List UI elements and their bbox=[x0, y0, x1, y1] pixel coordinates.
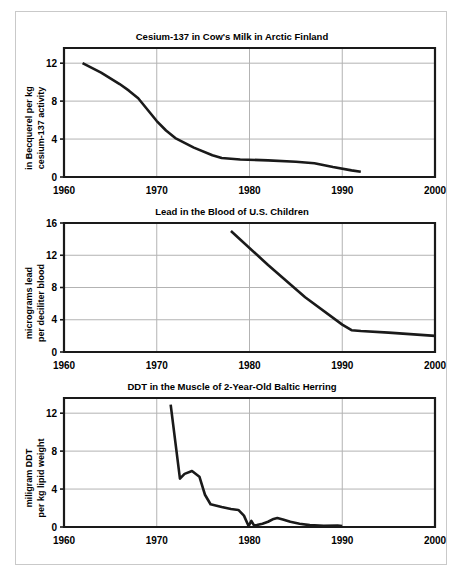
y-tick-label-cesium-4: 4 bbox=[51, 134, 57, 145]
x-tick-label-lead-1990: 1990 bbox=[331, 360, 354, 371]
y-tick-label-lead-0: 0 bbox=[51, 347, 57, 358]
chart-panel-cesium: Cesium-137 in Cow's Milk in Arctic Finla… bbox=[16, 28, 448, 200]
y-tick-label-lead-16: 16 bbox=[46, 218, 58, 229]
y-tick-label-lead-4: 4 bbox=[51, 314, 57, 325]
x-tick-label-cesium-1980: 1980 bbox=[238, 185, 261, 196]
y-axis-title-cesium-line2: cesium-137 activity bbox=[36, 87, 46, 170]
x-tick-label-cesium-1990: 1990 bbox=[331, 185, 354, 196]
x-tick-label-cesium-2000: 2000 bbox=[424, 185, 447, 196]
x-tick-label-ddt-1970: 1970 bbox=[146, 535, 169, 546]
chart-panel-ddt: DDT in the Muscle of 2-Year-Old Baltic H… bbox=[16, 378, 448, 550]
x-tick-label-cesium-1960: 1960 bbox=[53, 185, 76, 196]
chart-title-cesium: Cesium-137 in Cow's Milk in Arctic Finla… bbox=[136, 31, 329, 42]
x-tick-label-lead-1960: 1960 bbox=[53, 360, 76, 371]
x-tick-label-ddt-1990: 1990 bbox=[331, 535, 354, 546]
y-tick-label-ddt-4: 4 bbox=[51, 484, 57, 495]
y-axis-title-ddt-line1: miligram DDT bbox=[24, 448, 34, 507]
ticklabels-cesium: 0481219601970198019902000 bbox=[46, 58, 447, 196]
ticklabels-ddt: 0481219601970198019902000 bbox=[46, 408, 447, 546]
x-tick-label-lead-2000: 2000 bbox=[424, 360, 447, 371]
x-tick-label-ddt-1960: 1960 bbox=[53, 535, 76, 546]
y-tick-label-lead-12: 12 bbox=[46, 250, 58, 261]
figure-frame: Cesium-137 in Cow's Milk in Arctic Finla… bbox=[15, 11, 447, 565]
y-axis-title-lead-line1: micrograms lead bbox=[24, 267, 34, 339]
x-tick-label-ddt-2000: 2000 bbox=[424, 535, 447, 546]
chart-title-ddt: DDT in the Muscle of 2-Year-Old Baltic H… bbox=[127, 381, 336, 392]
chart-svg-ddt: DDT in the Muscle of 2-Year-Old Baltic H… bbox=[16, 378, 448, 550]
y-axis-title-lead-line2: per deciliter blood bbox=[36, 264, 46, 342]
y-axis-title-cesium-line1: in Becquerel per kg bbox=[24, 86, 34, 170]
gridlines-cesium bbox=[64, 48, 435, 177]
y-tick-label-cesium-8: 8 bbox=[51, 96, 57, 107]
x-tick-label-lead-1970: 1970 bbox=[146, 360, 169, 371]
chart-svg-cesium: Cesium-137 in Cow's Milk in Arctic Finla… bbox=[16, 28, 448, 200]
ticklabels-lead: 048121619601970198019902000 bbox=[46, 218, 447, 371]
y-tick-label-ddt-12: 12 bbox=[46, 408, 58, 419]
x-tick-label-ddt-1980: 1980 bbox=[238, 535, 261, 546]
y-axis-title-ddt-line2: per kg lipid weight bbox=[36, 438, 46, 517]
data-line-ddt bbox=[171, 405, 343, 526]
y-tick-label-lead-8: 8 bbox=[51, 282, 57, 293]
chart-svg-lead: Lead in the Blood of U.S. Children micro… bbox=[16, 203, 448, 375]
x-tick-label-cesium-1970: 1970 bbox=[146, 185, 169, 196]
chart-panel-lead: Lead in the Blood of U.S. Children micro… bbox=[16, 203, 448, 375]
y-tick-label-cesium-12: 12 bbox=[46, 58, 58, 69]
gridlines-ddt bbox=[64, 398, 435, 527]
y-tick-label-ddt-8: 8 bbox=[51, 446, 57, 457]
data-line-cesium bbox=[83, 63, 361, 172]
x-tick-label-lead-1980: 1980 bbox=[238, 360, 261, 371]
y-tick-label-cesium-0: 0 bbox=[51, 172, 57, 183]
y-tick-label-ddt-0: 0 bbox=[51, 522, 57, 533]
chart-title-lead: Lead in the Blood of U.S. Children bbox=[155, 206, 309, 217]
